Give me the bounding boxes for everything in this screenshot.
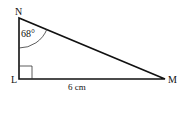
- side-length-label: 6 cm: [68, 82, 86, 92]
- triangle-diagram: N L M 68° 6 cm: [0, 0, 184, 114]
- vertex-label-l: L: [11, 74, 17, 85]
- vertex-label-n: N: [15, 6, 22, 17]
- triangle-nlm: [19, 18, 165, 79]
- angle-label: 68°: [21, 28, 35, 39]
- vertex-label-m: M: [168, 74, 177, 85]
- right-angle-marker: [19, 66, 32, 79]
